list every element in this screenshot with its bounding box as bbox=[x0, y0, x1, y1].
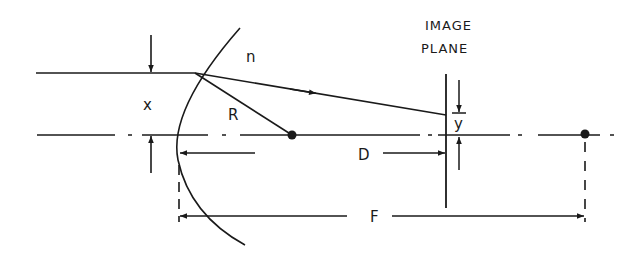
refracted-ray-arrow-icon bbox=[290, 89, 316, 93]
center-of-curvature-dot bbox=[288, 131, 297, 140]
focal-point-dot bbox=[581, 130, 590, 139]
label-f: F bbox=[370, 208, 379, 226]
optics-diagram: n x R y D F IMAGE PLANE bbox=[0, 0, 640, 259]
label-r: R bbox=[228, 106, 238, 124]
refracting-surface-arc bbox=[177, 28, 245, 245]
label-y: y bbox=[454, 115, 463, 133]
label-image-plane-line1: IMAGE bbox=[425, 18, 472, 33]
label-d: D bbox=[358, 146, 370, 164]
label-n: n bbox=[246, 48, 256, 66]
label-image-plane-line2: PLANE bbox=[421, 41, 468, 56]
radius-line bbox=[195, 73, 292, 135]
label-x: x bbox=[143, 96, 152, 114]
